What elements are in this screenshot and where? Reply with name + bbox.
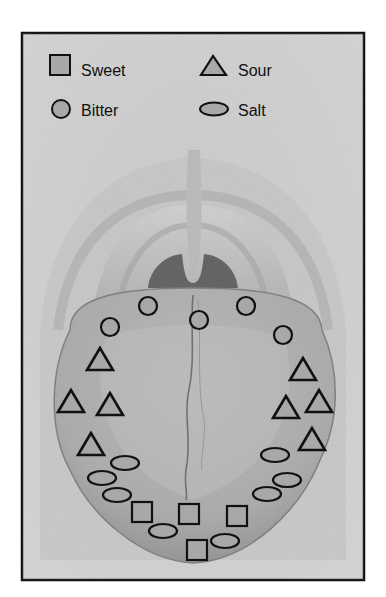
sweet-square-icon: [187, 540, 207, 560]
bitter-circle-icon: [237, 297, 255, 315]
salt-ellipse-icon: [273, 473, 301, 487]
bitter-circle-icon: [190, 311, 208, 329]
sweet-square-icon: [132, 502, 152, 522]
salt-ellipse-icon: [149, 524, 177, 538]
salt-ellipse-icon: [211, 534, 239, 548]
legend-label: Sweet: [81, 62, 126, 79]
bitter-circle-icon: [101, 318, 119, 336]
tongue-taste-map-figure: Sweet Sour Bitter Salt: [0, 0, 386, 597]
salt-ellipse-icon: [261, 448, 289, 462]
salt-ellipse-icon: [111, 456, 139, 470]
legend-label: Salt: [238, 102, 266, 119]
salt-ellipse-icon: [253, 487, 281, 501]
square-icon: [50, 55, 70, 75]
mouth-illustration: [22, 33, 364, 580]
sweet-square-icon: [227, 506, 247, 526]
bitter-circle-icon: [274, 326, 292, 344]
sweet-square-icon: [179, 504, 199, 524]
legend-label: Sour: [238, 62, 272, 79]
circle-icon: [52, 100, 70, 118]
bitter-circle-icon: [139, 297, 157, 315]
salt-ellipse-icon: [103, 488, 131, 502]
legend-label: Bitter: [81, 102, 119, 119]
salt-ellipse-icon: [88, 471, 116, 485]
legend-item-bitter: Bitter: [52, 100, 119, 119]
ellipse-icon: [200, 103, 228, 116]
